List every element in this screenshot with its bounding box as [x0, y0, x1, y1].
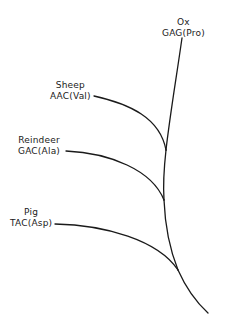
codon-label: TAC(Asp)	[10, 218, 52, 229]
species-name: Pig	[10, 207, 52, 218]
branch-sheep	[94, 96, 166, 150]
species-name: Ox	[162, 17, 205, 28]
taxon-label-sheep: Sheep AAC(Val)	[50, 80, 91, 102]
codon-label: GAC(Ala)	[18, 146, 60, 157]
root-trunk	[178, 270, 208, 313]
taxon-label-ox: Ox GAG(Pro)	[162, 17, 205, 39]
trunk-segment-2	[164, 200, 178, 270]
branch-ox	[166, 38, 182, 150]
taxon-label-reindeer: Reindeer GAC(Ala)	[18, 135, 60, 157]
codon-label: AAC(Val)	[50, 91, 91, 102]
species-name: Reindeer	[18, 135, 60, 146]
species-name: Sheep	[50, 80, 91, 91]
codon-label: GAG(Pro)	[162, 28, 205, 39]
branch-pig	[55, 224, 178, 270]
branch-reindeer	[66, 151, 164, 200]
taxon-label-pig: Pig TAC(Asp)	[10, 207, 52, 229]
trunk-segment-1	[164, 150, 166, 200]
phylogenetic-tree	[0, 0, 225, 329]
